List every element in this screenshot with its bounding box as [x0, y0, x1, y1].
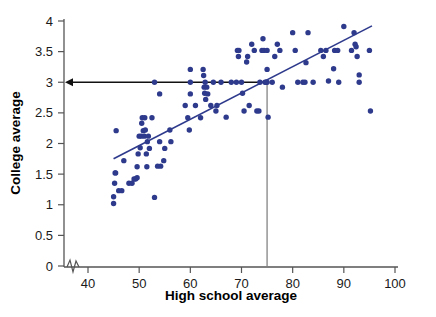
data-point [218, 80, 223, 85]
data-point [188, 67, 193, 72]
data-point [236, 54, 241, 59]
data-point [203, 97, 208, 102]
x-axis-title: High school average [165, 288, 298, 303]
data-point [113, 128, 118, 133]
data-point [302, 80, 307, 85]
y-tick-label: 2.5 [35, 105, 53, 120]
data-point [293, 48, 298, 53]
data-point [277, 48, 282, 53]
chart-canvas: 00.511.522.533.54 405060708090100 High s… [0, 0, 436, 317]
data-point [205, 91, 210, 96]
data-point [162, 146, 167, 151]
data-point [305, 30, 310, 35]
y-tick-label: 0.5 [35, 228, 53, 243]
data-point [318, 48, 323, 53]
data-point [241, 108, 246, 113]
data-point [336, 80, 341, 85]
data-point [211, 80, 216, 85]
data-point [351, 30, 356, 35]
data-point [139, 121, 144, 126]
data-point [157, 139, 162, 144]
data-point [201, 73, 206, 78]
data-point [134, 175, 139, 180]
x-tick-label: 40 [81, 276, 95, 291]
annotations-group [65, 78, 267, 266]
data-point [356, 72, 361, 77]
data-points-group [111, 24, 373, 206]
data-point [321, 54, 326, 59]
data-point [367, 48, 372, 53]
y-tick-label: 3.5 [35, 44, 53, 59]
data-point [245, 54, 250, 59]
data-point [264, 80, 269, 85]
data-point [147, 146, 152, 151]
data-point [349, 48, 354, 53]
data-point [260, 36, 265, 41]
scatter-chart: 00.511.522.533.54 405060708090100 High s… [0, 0, 436, 317]
data-point [310, 80, 315, 85]
y-tick-label: 3 [46, 75, 53, 90]
data-point [356, 80, 361, 85]
data-point [167, 127, 172, 132]
data-point [234, 80, 239, 85]
data-point [113, 170, 118, 175]
data-point [326, 78, 331, 83]
data-point [223, 114, 228, 119]
data-point [335, 48, 340, 53]
data-point [121, 158, 126, 163]
y-axis-ticks: 00.511.522.533.54 [35, 14, 64, 274]
data-point [142, 115, 147, 120]
data-point [270, 80, 275, 85]
data-point [202, 80, 207, 85]
data-point [185, 115, 190, 120]
x-tick-label: 100 [384, 276, 406, 291]
data-point [193, 103, 198, 108]
data-point [158, 163, 163, 168]
data-point [256, 108, 261, 113]
data-point [252, 48, 257, 53]
data-point [134, 164, 139, 169]
data-point [236, 48, 241, 53]
data-point [265, 114, 270, 119]
data-point [239, 80, 244, 85]
data-point [204, 84, 209, 89]
data-point [257, 80, 262, 85]
y-tick-label: 4 [46, 14, 53, 29]
y-tick-label: 1 [46, 197, 53, 212]
data-point [183, 103, 188, 108]
data-point [264, 67, 269, 72]
data-point [149, 115, 154, 120]
y-tick-label: 1.5 [35, 167, 53, 182]
data-point [157, 91, 162, 96]
axes-group [64, 19, 398, 272]
y-tick-label: 2 [46, 136, 53, 151]
prediction-arrow-head [65, 78, 73, 86]
data-point [187, 127, 192, 132]
data-point [135, 151, 140, 156]
data-point [145, 139, 150, 144]
data-point [353, 44, 358, 49]
data-point [152, 80, 157, 85]
data-point [303, 60, 308, 65]
y-axis-title: College average [8, 91, 23, 195]
data-point [264, 48, 269, 53]
data-point [112, 181, 117, 186]
data-point [144, 164, 149, 169]
y-tick-label: 0 [46, 259, 53, 274]
data-point [244, 59, 249, 64]
data-point [354, 54, 359, 59]
data-point [111, 201, 116, 206]
axis-break-icon [67, 260, 79, 272]
data-point [331, 66, 336, 71]
data-point [200, 67, 205, 72]
data-point [137, 145, 142, 150]
data-point [275, 42, 280, 47]
data-point [188, 80, 193, 85]
x-tick-label: 90 [337, 276, 351, 291]
data-point [229, 80, 234, 85]
data-point [368, 108, 373, 113]
data-point [161, 158, 166, 163]
data-point [249, 42, 254, 47]
data-point [188, 91, 193, 96]
data-point [111, 194, 116, 199]
